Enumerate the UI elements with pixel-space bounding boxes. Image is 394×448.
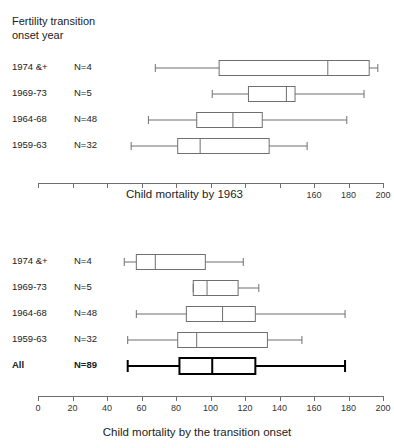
axis-tick-label: 0 [35, 403, 40, 413]
axis-tick-label: 40 [102, 403, 112, 413]
axis-tick-label: 60 [136, 403, 146, 413]
axis-tick-label: 160 [306, 403, 321, 413]
axis-tick [211, 396, 212, 401]
axis-tick-label: 160 [306, 190, 321, 200]
boxplot-row: 1959-63N=32 [0, 327, 394, 353]
x-axis-title-lower: Child mortality by the transition onset [0, 426, 394, 438]
axis-tick [142, 396, 143, 401]
axis-tick [107, 396, 108, 401]
boxplot-row: 1964-68N=48 [0, 301, 394, 327]
axis-tick-label: 20 [67, 403, 77, 413]
boxplot-glyph [0, 133, 394, 159]
axis-tick [314, 183, 315, 188]
boxplot-row: 1969-73N=5 [0, 81, 394, 107]
axis-tick [73, 396, 74, 401]
boxplot-glyph [0, 353, 394, 379]
boxplot-row: AllN=89 [0, 353, 394, 379]
axis-tick-label: 200 [375, 403, 390, 413]
axis-tick-label: 180 [341, 190, 356, 200]
axis-tick [280, 183, 281, 188]
axis-tick-label: 200 [375, 190, 390, 200]
axis-tick [349, 183, 350, 188]
axis-tick [245, 396, 246, 401]
boxplot-row: 1974 &+N=4 [0, 249, 394, 275]
boxplot-glyph [0, 275, 394, 301]
boxplot-glyph [0, 55, 394, 81]
chart-panel-lower: 1974 &+N=41969-73N=51964-68N=481959-63N=… [0, 236, 394, 448]
boxplot-glyph [0, 249, 394, 275]
x-axis-title-upper: Child mortality by 1963 [0, 188, 243, 200]
axis-tick [314, 396, 315, 401]
axis-tick [383, 183, 384, 188]
boxplot-row: 1974 &+N=4 [0, 55, 394, 81]
boxplot-row: 1964-68N=48 [0, 107, 394, 133]
boxplot-glyph [0, 107, 394, 133]
axis-tick [176, 396, 177, 401]
boxplot-row: 1969-73N=5 [0, 275, 394, 301]
boxplot-glyph [0, 301, 394, 327]
axis-tick [383, 396, 384, 401]
axis-tick-label: 120 [237, 403, 252, 413]
axis-tick [245, 183, 246, 188]
chart-panel-upper: Fertility transition onset year 1974 &+N… [0, 0, 394, 215]
boxplot-glyph [0, 81, 394, 107]
axis-tick-label: 100 [203, 403, 218, 413]
axis-tick-label: 140 [272, 403, 287, 413]
axis-tick [280, 396, 281, 401]
x-axis-lower: 020406080100120140160180200 [0, 396, 394, 430]
boxplot-glyph [0, 327, 394, 353]
boxplot-row: 1959-63N=32 [0, 133, 394, 159]
axis-tick-label: 80 [171, 403, 181, 413]
axis-tick [349, 396, 350, 401]
axis-tick [38, 396, 39, 401]
axis-tick-label: 180 [341, 403, 356, 413]
boxplot-figure: Fertility transition onset year 1974 &+N… [0, 0, 394, 448]
